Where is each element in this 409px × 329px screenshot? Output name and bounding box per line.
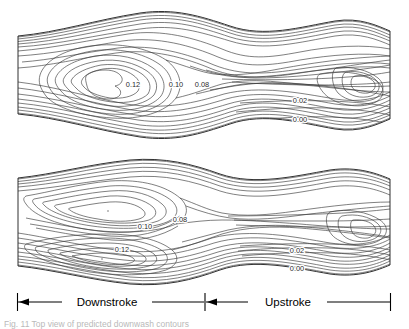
contour-label: 0.02	[290, 246, 304, 255]
figure-contour-pair: 0.12 0.10 0.08 0.02 0.00	[0, 0, 409, 329]
upper-contour-panel: 0.12 0.10 0.08 0.02 0.00	[0, 0, 409, 150]
stroke-phase-axis: Downstroke Upstroke	[0, 290, 409, 318]
axis-arrow-upstroke	[207, 299, 217, 306]
contour-label: 0.00	[290, 264, 304, 273]
axis-arrow-downstroke	[19, 299, 29, 306]
lower-contour-panel: 0.10 0.08 0.12 0.02 0.00	[0, 152, 409, 292]
contour-label: 0.00	[293, 115, 307, 124]
contour-label: 0.02	[293, 96, 307, 105]
axis-label-downstroke: Downstroke	[77, 296, 138, 308]
contour-label: 0.08	[173, 215, 187, 224]
contour-label: 0.10	[169, 80, 183, 89]
contour-label: 0.12	[126, 80, 140, 89]
axis-label-upstroke: Upstroke	[265, 296, 311, 308]
contour-label: 0.10	[138, 222, 152, 231]
contour-label: 0.12	[115, 245, 129, 254]
contour-label: 0.08	[195, 80, 209, 89]
figure-caption: Fig. 11 Top view of predicted downwash c…	[4, 319, 409, 329]
